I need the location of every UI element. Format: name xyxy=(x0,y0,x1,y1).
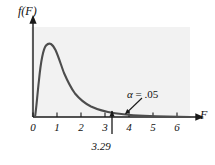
x-tick-label-4: 4 xyxy=(121,121,137,133)
x-tick-label-1: 1 xyxy=(49,121,65,133)
y-axis-label: f(F) xyxy=(18,4,37,19)
alpha-equals-sign: = xyxy=(136,88,142,100)
f-density-curve xyxy=(35,44,190,117)
x-axis-label: F xyxy=(200,108,207,123)
x-tick-label-5: 5 xyxy=(145,121,161,133)
x-tick-label-2: 2 xyxy=(73,121,89,133)
alpha-value: .05 xyxy=(145,88,159,100)
alpha-annotation: α = .05 xyxy=(127,88,158,100)
critical-value-label: 3.29 xyxy=(86,140,116,152)
alpha-symbol: α xyxy=(127,88,133,100)
x-tick-label-0: 0 xyxy=(25,121,41,133)
x-tick-label-6: 6 xyxy=(169,121,185,133)
f-distribution-figure: f(F) F 0 1 2 3 4 5 6 α = .05 3.29 xyxy=(0,0,215,165)
x-tick-label-3: 3 xyxy=(97,121,113,133)
